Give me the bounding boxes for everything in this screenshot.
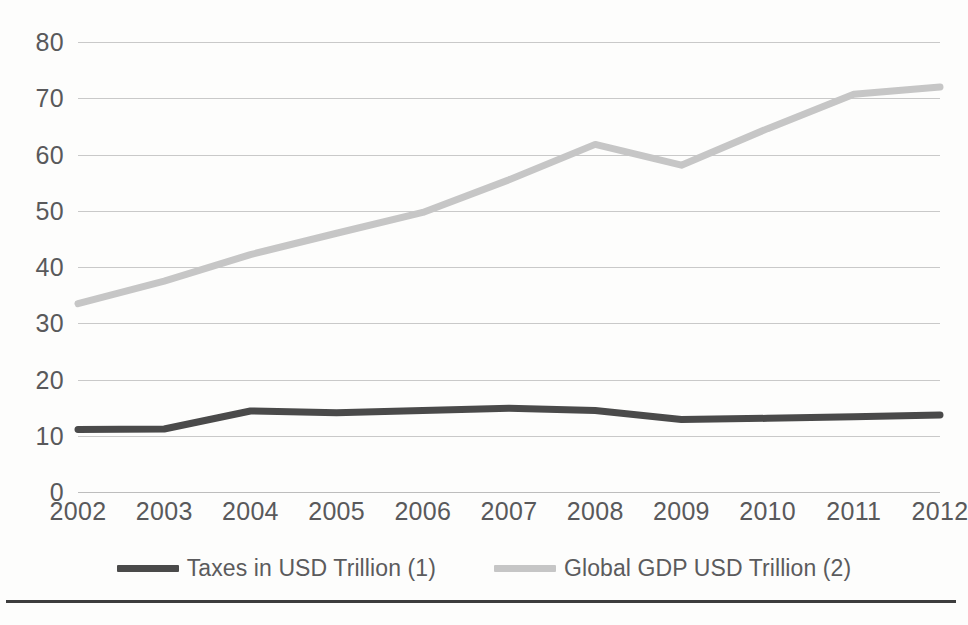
legend-swatch-icon-2: [494, 565, 556, 572]
footer-divider: [6, 600, 956, 603]
gridline-0: [78, 492, 940, 493]
y-tick-label-80: 80: [36, 28, 64, 57]
x-axis-tick-labels: 2002200320042005200620072008200920102011…: [78, 497, 940, 535]
series-lines: [78, 42, 940, 492]
legend-item-1[interactable]: Taxes in USD Trillion (1): [117, 555, 436, 582]
series-line-1: [78, 408, 940, 429]
legend-swatch-icon-1: [117, 565, 179, 572]
chart-legend: Taxes in USD Trillion (1)Global GDP USD …: [0, 548, 968, 588]
series-line-2: [78, 87, 940, 304]
y-tick-label-20: 20: [36, 365, 64, 394]
y-tick-label-60: 60: [36, 140, 64, 169]
x-tick-label-2004: 2004: [222, 497, 279, 526]
x-tick-label-2008: 2008: [567, 497, 624, 526]
x-tick-label-2005: 2005: [308, 497, 365, 526]
x-tick-label-2010: 2010: [739, 497, 796, 526]
x-tick-label-2007: 2007: [481, 497, 538, 526]
x-tick-label-2002: 2002: [50, 497, 107, 526]
y-tick-label-50: 50: [36, 196, 64, 225]
x-tick-label-2009: 2009: [653, 497, 710, 526]
y-tick-label-40: 40: [36, 253, 64, 282]
x-tick-label-2006: 2006: [394, 497, 451, 526]
x-tick-label-2011: 2011: [826, 497, 881, 526]
x-tick-label-2012: 2012: [912, 497, 968, 526]
x-tick-label-2003: 2003: [136, 497, 193, 526]
plot-area: 01020304050607080: [78, 42, 940, 492]
chart-page: 01020304050607080 2002200320042005200620…: [0, 0, 968, 625]
footer-caption: [14, 610, 514, 625]
y-tick-label-30: 30: [36, 309, 64, 338]
legend-label-2: Global GDP USD Trillion (2): [564, 555, 851, 582]
legend-item-2[interactable]: Global GDP USD Trillion (2): [494, 555, 851, 582]
y-tick-label-10: 10: [36, 421, 64, 450]
y-tick-label-70: 70: [36, 84, 64, 113]
legend-label-1: Taxes in USD Trillion (1): [187, 555, 436, 582]
